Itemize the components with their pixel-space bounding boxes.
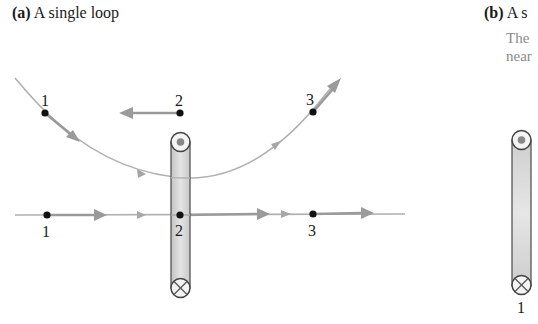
point-2-top	[176, 109, 183, 116]
arrow-head-icon	[257, 208, 270, 220]
arrow-head-icon	[361, 207, 374, 219]
label-point-1-curve: 1	[41, 92, 49, 109]
arrow-head-icon	[281, 210, 291, 218]
current-loop-b	[512, 131, 531, 295]
arrow-head-icon	[137, 211, 146, 219]
point-1-curve	[41, 109, 48, 116]
point-3-curve	[309, 108, 316, 115]
point-2-straight	[176, 211, 183, 218]
label-point-2-straight: 2	[175, 222, 183, 239]
label-point-2-top: 2	[175, 92, 183, 109]
velocity-vector-curve-point-3	[313, 89, 333, 112]
label-loop-b-1: 1	[517, 299, 525, 316]
panel-b-diagram: 1	[512, 131, 531, 317]
diagram-canvas: 1 2 3 1 2 3 1	[0, 0, 538, 324]
arrow-head-icon	[119, 107, 133, 119]
label-point-3-straight: 3	[308, 222, 316, 239]
label-point-1-straight: 1	[42, 223, 50, 240]
panel-a-diagram: 1 2 3 1 2 3	[15, 78, 405, 298]
point-3-straight	[309, 210, 316, 217]
velocity-vector-straight-point-3	[313, 213, 362, 214]
velocity-vector-straight-point-2	[180, 214, 258, 215]
label-point-3-curve: 3	[306, 91, 314, 108]
point-1-straight	[43, 211, 50, 218]
arrow-head-icon	[94, 209, 107, 221]
